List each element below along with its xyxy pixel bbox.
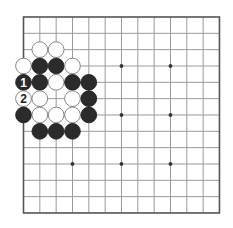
black-stone[interactable]: 1 <box>16 74 32 90</box>
black-stone-disc <box>32 123 48 139</box>
black-stone-disc <box>65 123 81 139</box>
white-stone[interactable] <box>32 42 48 58</box>
white-stone-disc <box>32 107 48 123</box>
black-stone[interactable] <box>48 123 64 139</box>
move-number-label: 1 <box>20 76 27 90</box>
star-point <box>169 64 173 68</box>
move-number-label: 2 <box>20 92 27 106</box>
black-stone[interactable] <box>81 91 97 107</box>
white-stone[interactable] <box>65 58 81 74</box>
black-stone-disc <box>81 91 97 107</box>
white-stone[interactable] <box>48 42 64 58</box>
white-stone-disc <box>16 58 32 74</box>
stones-layer: 12 <box>16 42 97 139</box>
white-stone-disc <box>65 107 81 123</box>
white-stone[interactable] <box>48 107 64 123</box>
star-point <box>120 113 124 117</box>
star-point <box>71 162 75 166</box>
black-stone-disc <box>32 58 48 74</box>
black-stone-disc <box>48 123 64 139</box>
white-stone[interactable] <box>65 91 81 107</box>
white-stone-disc <box>65 91 81 107</box>
star-point <box>120 162 124 166</box>
white-stone[interactable] <box>32 91 48 107</box>
black-stone-disc <box>32 74 48 90</box>
go-board[interactable]: 12 <box>0 0 233 228</box>
black-stone-disc <box>65 74 81 90</box>
black-stone[interactable] <box>81 107 97 123</box>
white-stone[interactable] <box>65 107 81 123</box>
white-stone-disc <box>48 107 64 123</box>
star-point <box>169 162 173 166</box>
black-stone[interactable] <box>16 107 32 123</box>
white-stone-disc <box>32 91 48 107</box>
white-stone-disc <box>32 42 48 58</box>
black-stone[interactable] <box>48 58 64 74</box>
black-stone[interactable] <box>65 123 81 139</box>
black-stone[interactable] <box>32 123 48 139</box>
black-stone[interactable] <box>65 74 81 90</box>
white-stone-disc <box>48 74 64 90</box>
white-stone[interactable] <box>16 58 32 74</box>
star-point <box>120 64 124 68</box>
white-stone-disc <box>65 58 81 74</box>
white-stone[interactable] <box>32 107 48 123</box>
black-stone-disc <box>48 58 64 74</box>
white-stone[interactable]: 2 <box>16 91 32 107</box>
black-stone-disc <box>81 74 97 90</box>
white-stone-disc <box>48 42 64 58</box>
black-stone[interactable] <box>81 74 97 90</box>
white-stone[interactable] <box>48 74 64 90</box>
black-stone-disc <box>81 107 97 123</box>
star-point <box>169 113 173 117</box>
black-stone[interactable] <box>32 58 48 74</box>
black-stone[interactable] <box>32 74 48 90</box>
black-stone-disc <box>16 107 32 123</box>
